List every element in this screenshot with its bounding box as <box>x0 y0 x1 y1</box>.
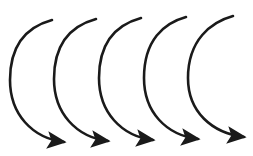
curved-arrow-icon <box>188 16 244 137</box>
curved-arrows-diagram <box>0 0 253 156</box>
arrows-group <box>10 16 244 142</box>
curved-arrow-icon <box>10 20 64 142</box>
curved-arrow-icon <box>144 17 198 139</box>
